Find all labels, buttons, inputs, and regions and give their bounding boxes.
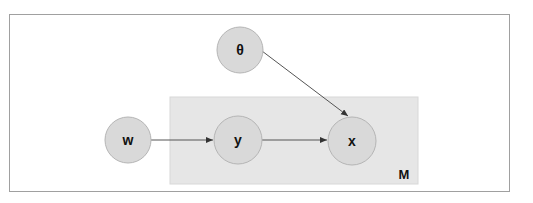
diagram-canvas: M θ w y x <box>0 0 533 203</box>
svg-text:w: w <box>122 132 134 148</box>
plate-label: M <box>399 167 410 182</box>
svg-text:y: y <box>234 132 242 148</box>
svg-text:x: x <box>348 133 356 149</box>
svg-text:θ: θ <box>236 42 244 58</box>
node-y: y <box>214 116 262 164</box>
node-theta: θ <box>217 27 263 73</box>
node-x: x <box>328 117 376 165</box>
node-w: w <box>105 117 151 163</box>
